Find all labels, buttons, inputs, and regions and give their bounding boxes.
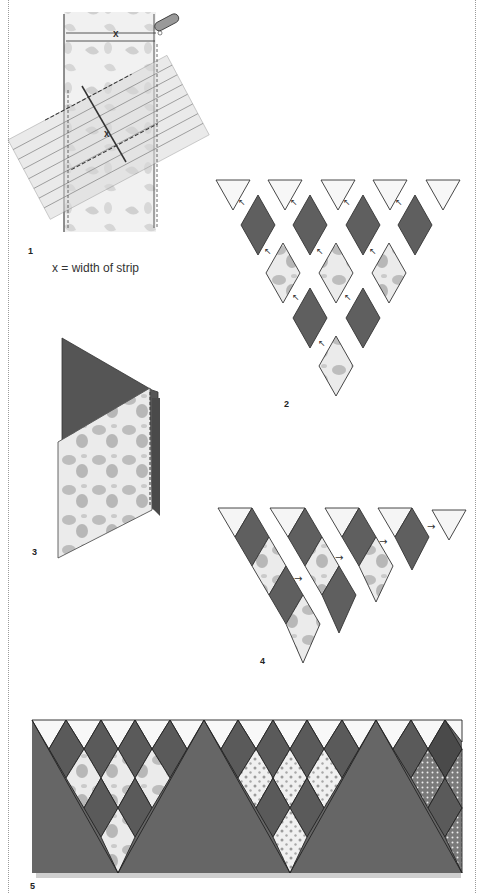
arrow-up-left-icon: ↖ bbox=[343, 197, 351, 207]
arrow-up-left-icon: ↖ bbox=[238, 197, 246, 207]
tape-tab-icon bbox=[153, 12, 180, 35]
arrow-right-icon: → bbox=[427, 521, 435, 532]
figure-1-number: 1 bbox=[28, 246, 33, 256]
patterned-diamond-piece bbox=[372, 243, 406, 303]
figure-4-number: 4 bbox=[260, 656, 265, 666]
arrow-up-left-icon: ↖ bbox=[316, 246, 324, 256]
arrow-up-left-icon: ↖ bbox=[318, 338, 326, 348]
arrow-right-icon: → bbox=[294, 573, 302, 584]
arrow-up-left-icon: ↖ bbox=[344, 292, 352, 302]
illustration-canvas: x x 1 x = width of strip bbox=[0, 0, 482, 893]
svg-text:x: x bbox=[104, 128, 110, 139]
arrow-up-left-icon: ↖ bbox=[290, 197, 298, 207]
figure-3-number: 3 bbox=[32, 547, 37, 557]
figure-2-piece-layout bbox=[216, 180, 460, 396]
arrow-right-icon: → bbox=[335, 552, 343, 563]
figure-5-number: 5 bbox=[30, 881, 35, 891]
figure-3-stitching bbox=[58, 338, 160, 558]
arrow-right-icon: → bbox=[379, 536, 387, 547]
figure-1-strip-cutting: x x bbox=[8, 12, 209, 232]
arrow-up-left-icon: ↖ bbox=[369, 246, 377, 256]
dark-diamond-piece bbox=[398, 195, 432, 255]
figure-1-caption: x = width of strip bbox=[52, 261, 139, 275]
arrow-up-left-icon: ↖ bbox=[264, 246, 272, 256]
triangle-piece bbox=[426, 180, 460, 210]
measure-x-label: x bbox=[113, 28, 119, 39]
figure-5-finished-border bbox=[32, 720, 462, 878]
figure-2-number: 2 bbox=[284, 399, 289, 409]
arrow-up-left-icon: ↖ bbox=[395, 197, 403, 207]
arrow-up-left-icon: ↖ bbox=[292, 292, 300, 302]
